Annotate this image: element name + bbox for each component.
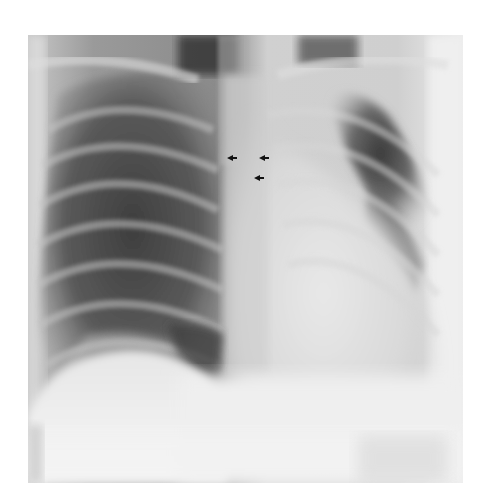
chest-xray-image xyxy=(28,35,463,483)
arrow-marker-icon xyxy=(227,154,237,162)
xray-graphic xyxy=(28,35,463,483)
arrow-marker-icon xyxy=(259,154,269,162)
arrow-marker-icon xyxy=(254,174,264,182)
